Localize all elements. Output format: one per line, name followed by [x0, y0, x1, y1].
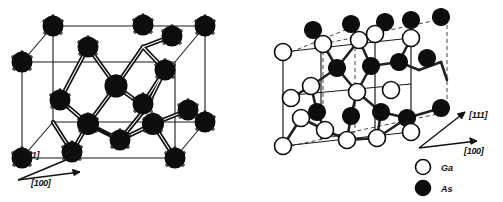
zincblende-lattice-drawing: [111] [100] Ga As [251, 0, 503, 202]
panel-diamond-lattice: [111] [100] [0, 0, 252, 202]
legend: Ga As [416, 160, 454, 196]
panel-zincblende-lattice: [111] [100] Ga As [251, 0, 503, 202]
direction-label-100: [100] [30, 178, 52, 188]
direction-label-100: [100] [463, 146, 485, 156]
legend-label-ga: Ga [441, 163, 453, 173]
direction-label-111: [111] [468, 110, 488, 120]
legend-label-as: As [440, 184, 453, 194]
legend-swatch-ga [416, 160, 431, 175]
direction-label-111: [111] [20, 150, 40, 160]
diamond-lattice-drawing: [111] [100] [0, 0, 252, 202]
crystal-structure-figure: [111] [100] [0, 0, 503, 202]
legend-swatch-as [416, 181, 431, 196]
